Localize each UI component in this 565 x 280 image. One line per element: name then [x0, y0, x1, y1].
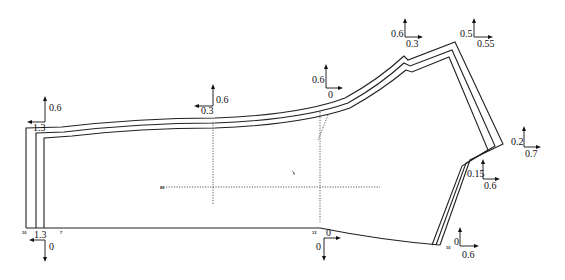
- svg-text:0.6: 0.6: [484, 180, 497, 191]
- svg-text:1.3: 1.3: [33, 122, 46, 133]
- svg-text:0: 0: [454, 236, 459, 247]
- svg-text:0.3: 0.3: [406, 38, 419, 49]
- grade-point-bottom-left: 1.3 0: [29, 229, 54, 262]
- svg-text:0: 0: [328, 89, 333, 100]
- pattern-diagram: 88 10 7 12 10 0.6 1.3 1.3 0 0.6 0.3 0.6 …: [0, 0, 565, 280]
- grade-point-bottom-right: 0 0.6: [454, 227, 479, 260]
- grade-point-right-tip: 0.2 0.7: [511, 126, 541, 159]
- svg-text:0.55: 0.55: [477, 38, 495, 49]
- svg-text:0.5: 0.5: [460, 28, 473, 39]
- grade-point-top-right: 0.5 0.55: [460, 18, 495, 49]
- grade-point-top-mid-left: 0.6 0.3: [194, 84, 229, 116]
- svg-text:0.7: 0.7: [525, 148, 538, 159]
- grade-point-right-inner: 0.15 0.6: [467, 159, 500, 191]
- grade-point-top-mid-right: 0.6 0: [312, 64, 343, 100]
- bottom-left-mark-b: 7: [60, 230, 63, 235]
- grade-point-notch: 0.6 0.3: [391, 18, 423, 49]
- svg-text:1.3: 1.3: [34, 229, 47, 240]
- grade-point-bottom-mid: 0 0: [316, 227, 341, 261]
- center-mark-label: 88: [160, 185, 165, 190]
- svg-text:0.6: 0.6: [462, 249, 475, 260]
- bottom-left-mark-a: 10: [22, 230, 27, 235]
- bottom-right-mark: 10: [446, 245, 451, 250]
- cursor-mark-icon: [292, 170, 295, 175]
- bottom-mid-mark: 12: [312, 230, 317, 235]
- svg-text:0.3: 0.3: [201, 105, 214, 116]
- svg-text:0.6: 0.6: [312, 74, 325, 85]
- svg-text:0.6: 0.6: [216, 94, 229, 105]
- svg-text:0.6: 0.6: [49, 102, 62, 113]
- svg-text:0: 0: [326, 227, 331, 238]
- svg-text:0.2: 0.2: [511, 136, 524, 147]
- pattern-outline: [26, 42, 503, 245]
- svg-text:0: 0: [49, 241, 54, 252]
- svg-text:0: 0: [316, 241, 321, 252]
- svg-text:0.15: 0.15: [467, 168, 485, 179]
- svg-text:0.6: 0.6: [391, 28, 404, 39]
